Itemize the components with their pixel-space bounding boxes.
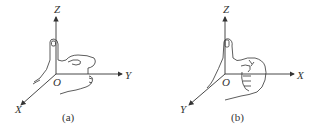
- panel-b: Z X Y O (b): [155, 0, 309, 136]
- x-axis-label: X: [15, 104, 22, 115]
- hand-icon: [207, 39, 266, 100]
- hand-axes-diagram-a: [0, 0, 155, 136]
- y-axis-label: Y: [180, 104, 186, 115]
- origin-label: O: [53, 77, 61, 88]
- origin-label: O: [222, 77, 230, 88]
- z-axis-label: Z: [54, 4, 60, 15]
- x-axis-label: X: [297, 70, 304, 81]
- y-axis-line: [189, 74, 225, 105]
- caption-a: (a): [62, 112, 74, 123]
- z-axis-label: Z: [223, 4, 229, 15]
- y-axis-label: Y: [125, 70, 131, 81]
- panel-a: Z Y X O (a): [0, 0, 155, 136]
- caption-b: (b): [231, 112, 244, 123]
